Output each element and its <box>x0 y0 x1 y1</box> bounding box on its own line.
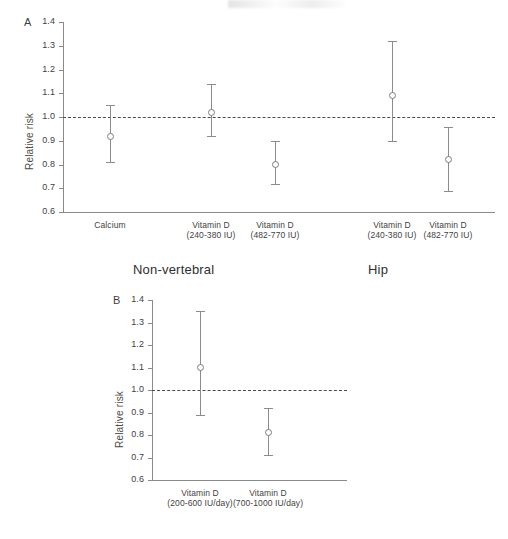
y-axis-tick-label: 0.9 <box>31 135 55 145</box>
panel-b: B Relative risk 0.60.70.80.91.01.11.21.3… <box>0 290 508 539</box>
x-axis-category-label: Calcium <box>65 220 155 230</box>
x-axis-category-label-line2: (482-770 IU) <box>403 230 493 240</box>
x-axis-category-label: Vitamin D(700-1000 IU/day) <box>223 488 313 508</box>
y-axis-tick-label: 1.3 <box>31 40 55 50</box>
x-axis-category-label: Vitamin D(482-770 IU) <box>230 220 320 240</box>
error-bar-cap-lower <box>444 191 453 192</box>
data-point-group[interactable] <box>63 22 495 212</box>
panel-b-plot-area: 0.60.70.80.91.01.11.21.31.4Vitamin D(200… <box>152 300 347 480</box>
y-axis-tick-label: 1.1 <box>120 362 144 372</box>
data-point-marker[interactable] <box>445 156 452 163</box>
error-bar-cap-lower <box>264 455 273 456</box>
y-axis-tick-label: 1.3 <box>120 317 144 327</box>
y-axis-tick-label: 0.8 <box>31 159 55 169</box>
x-axis-category-label-line1: Vitamin D <box>403 220 493 230</box>
x-axis-line <box>152 480 347 481</box>
panel-b-y-axis-title: Relative risk <box>114 391 125 448</box>
y-axis-tick-label: 1.2 <box>120 339 144 349</box>
y-axis-tick-label: 0.7 <box>31 182 55 192</box>
group-title-non-vertebral: Non-vertebral <box>133 262 214 277</box>
y-axis-tick-label: 0.6 <box>120 474 144 484</box>
y-axis-tick <box>148 480 152 481</box>
y-axis-tick-label: 1.4 <box>120 294 144 304</box>
data-point-marker[interactable] <box>265 429 272 436</box>
x-axis-category-label-line2: (482-770 IU) <box>230 230 320 240</box>
x-axis-category-label-line1: Vitamin D <box>223 488 313 498</box>
data-point-group[interactable] <box>152 300 347 480</box>
x-axis-category-label-line1: Vitamin D <box>230 220 320 230</box>
x-axis-category-label: Vitamin D(482-770 IU) <box>403 220 493 240</box>
y-axis-tick-label: 0.7 <box>120 452 144 462</box>
y-axis-tick-label: 0.9 <box>120 407 144 417</box>
x-axis-category-label-line1: Calcium <box>65 220 155 230</box>
y-axis-tick-label: 1.4 <box>31 16 55 26</box>
y-axis-tick-label: 1.1 <box>31 87 55 97</box>
y-axis-tick-label: 1.0 <box>31 111 55 121</box>
figure-canvas: A Relative risk 0.60.70.80.91.01.11.21.3… <box>0 0 508 539</box>
y-axis-tick <box>59 212 63 213</box>
group-title-hip: Hip <box>368 262 388 277</box>
error-bar-cap-upper <box>444 127 453 128</box>
y-axis-tick-label: 1.2 <box>31 64 55 74</box>
y-axis-tick-label: 0.6 <box>31 206 55 216</box>
x-axis-line <box>63 212 495 213</box>
panel-a: A Relative risk 0.60.70.80.91.01.11.21.3… <box>0 0 508 270</box>
x-axis-category-label-line2: (700-1000 IU/day) <box>223 498 313 508</box>
y-axis-tick-label: 1.0 <box>120 384 144 394</box>
y-axis-tick-label: 0.8 <box>120 429 144 439</box>
error-bar-cap-upper <box>264 408 273 409</box>
panel-a-plot-area: 0.60.70.80.91.01.11.21.31.4CalciumVitami… <box>63 22 495 212</box>
